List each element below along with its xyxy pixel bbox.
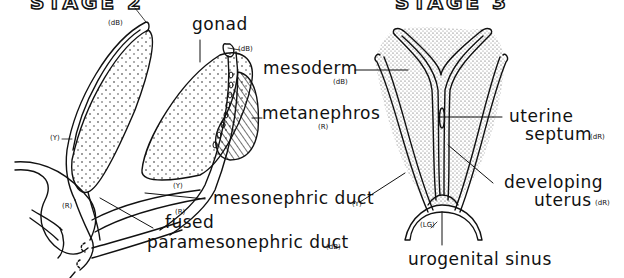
label-septum-code: (dR) [590,134,605,141]
label-fused: fused [165,214,214,231]
label-mesoderm: mesoderm [263,60,358,77]
label-metanephros-code: (R) [318,124,328,131]
code-left-side: (Y) [50,135,60,142]
label-mesonephric-duct: mesonephric duct [213,190,374,207]
label-metanephros: metanephros [262,105,380,122]
label-paramesonephric-duct-code: (dB) [326,244,341,251]
label-urogenital-sinus: urogenital sinus [408,251,552,268]
label-uterine: uterine [509,108,573,125]
label-uterus-code: (dR) [595,200,610,207]
label-septum: septum [525,126,592,143]
code-middle-r: (R) [175,209,185,216]
right-stage-drawing [355,27,508,245]
label-mesonephric-duct-code: (Y) [352,201,362,208]
code-bottom-left-r: (R) [62,203,72,210]
label-mesoderm-code: (dB) [333,79,348,86]
label-paramesonephric-duct: paramesonephric duct [147,234,349,251]
label-developing: developing [504,174,603,191]
code-middle-y: (Y) [173,183,183,190]
label-gonad: gonad [192,16,248,33]
code-top-right-duct: (dB) [238,46,253,53]
label-sinus-code: (LG) [420,222,435,229]
label-uterus: uterus [534,192,592,209]
code-top-left-duct: (dB) [108,20,123,27]
